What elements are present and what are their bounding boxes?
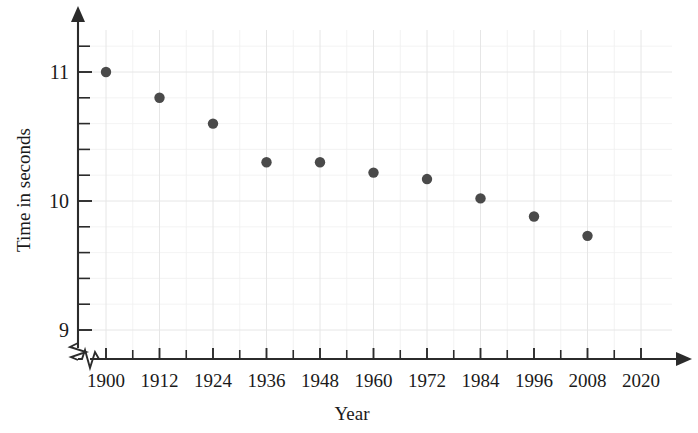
data-point bbox=[422, 174, 432, 184]
y-axis-arrowhead bbox=[71, 6, 85, 22]
grid-minor bbox=[90, 30, 672, 352]
x-tick-label: 1924 bbox=[194, 370, 233, 391]
x-axis: 1900191219241936194819601972198419962008… bbox=[78, 348, 692, 424]
data-point bbox=[154, 93, 164, 103]
data-point bbox=[261, 157, 271, 167]
y-axis: 91011 Time in seconds bbox=[13, 6, 92, 360]
x-tick-label: 1948 bbox=[301, 370, 339, 391]
x-tick-label: 2020 bbox=[622, 370, 660, 391]
y-axis-ticks bbox=[78, 46, 92, 330]
data-point bbox=[368, 167, 378, 177]
x-axis-tick-labels: 1900191219241936194819601972198419962008… bbox=[87, 370, 660, 391]
data-point bbox=[315, 157, 325, 167]
data-point bbox=[208, 118, 218, 128]
grid-major bbox=[90, 30, 672, 352]
y-axis-title: Time in seconds bbox=[13, 128, 34, 252]
data-point bbox=[101, 67, 111, 77]
x-tick-label: 1960 bbox=[355, 370, 393, 391]
data-point bbox=[582, 231, 592, 241]
data-point bbox=[529, 211, 539, 221]
x-axis-arrowhead bbox=[676, 352, 692, 366]
x-axis-title: Year bbox=[334, 403, 370, 424]
x-tick-label: 1996 bbox=[515, 370, 553, 391]
y-axis-tick-labels: 91011 bbox=[49, 61, 69, 341]
x-tick-label: 2008 bbox=[569, 370, 607, 391]
x-tick-label: 1936 bbox=[248, 370, 286, 391]
y-tick-label: 10 bbox=[49, 190, 69, 212]
x-tick-label: 1984 bbox=[462, 370, 501, 391]
x-tick-label: 1912 bbox=[141, 370, 179, 391]
x-tick-label: 1972 bbox=[408, 370, 446, 391]
plot-canvas: 1900191219241936194819601972198419962008… bbox=[0, 0, 698, 433]
y-tick-label: 11 bbox=[50, 61, 69, 83]
x-tick-label: 1900 bbox=[87, 370, 125, 391]
scatter-plot-figure: 1900191219241936194819601972198419962008… bbox=[0, 0, 698, 433]
y-tick-label: 9 bbox=[59, 319, 69, 341]
data-point bbox=[475, 193, 485, 203]
